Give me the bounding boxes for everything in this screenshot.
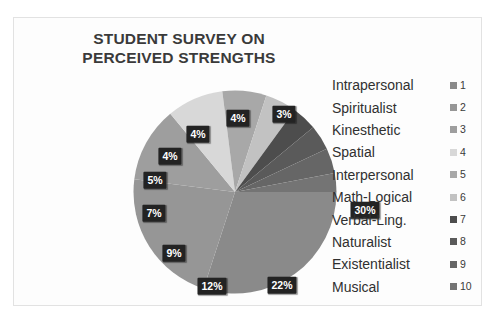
legend-item-index: 1 — [460, 80, 466, 91]
legend-item-index: 9 — [460, 259, 466, 270]
legend-item-label: Kinesthetic — [332, 122, 446, 138]
legend-item[interactable]: Math-Logical6 — [332, 186, 482, 208]
pie-data-label: 4% — [158, 148, 181, 165]
legend-item-label: Spiritualist — [332, 100, 446, 116]
legend-item[interactable]: Existentialist9 — [332, 253, 482, 275]
legend-key: 4 — [450, 147, 482, 158]
legend-swatch-icon — [450, 194, 457, 201]
legend-item-index: 3 — [460, 124, 466, 135]
legend-item[interactable]: Verbal-Ling.7 — [332, 208, 482, 230]
legend-item-label: Spatial — [332, 144, 446, 160]
legend-item-label: Existentialist — [332, 256, 446, 272]
legend-swatch-icon — [450, 283, 457, 290]
legend-swatch-icon — [450, 126, 457, 133]
legend-item-label: Interpersonal — [332, 167, 446, 183]
legend-item[interactable]: Intrapersonal1 — [332, 74, 482, 96]
legend-swatch-icon — [450, 149, 457, 156]
pie-data-label: 4% — [186, 126, 209, 143]
legend-item-label: Intrapersonal — [332, 77, 446, 93]
pie-data-label: 9% — [162, 245, 185, 262]
legend-item-index: 7 — [460, 214, 466, 225]
legend-swatch-icon — [450, 261, 457, 268]
legend-item-index: 2 — [460, 102, 466, 113]
legend-item-index: 10 — [460, 281, 472, 292]
legend-item-label: Verbal-Ling. — [332, 212, 446, 228]
chart-card: STUDENT SURVEY ON PERCEIVED STRENGTHS 30… — [13, 17, 482, 306]
legend-key: 6 — [450, 192, 482, 203]
legend-item[interactable]: Spiritualist2 — [332, 96, 482, 118]
legend-item[interactable]: Spatial4 — [332, 141, 482, 163]
legend-item-index: 4 — [460, 147, 466, 158]
legend-item[interactable]: Naturalist8 — [332, 231, 482, 253]
legend-item[interactable]: Interpersonal5 — [332, 164, 482, 186]
pie-data-label: 22% — [267, 277, 296, 294]
legend-key: 8 — [450, 236, 482, 247]
legend-item[interactable]: Musical10 — [332, 276, 482, 298]
pie-data-label: 4% — [226, 110, 249, 127]
legend-item-label: Naturalist — [332, 234, 446, 250]
legend-item-label: Math-Logical — [332, 189, 446, 205]
pie-data-label: 12% — [197, 278, 226, 295]
legend-swatch-icon — [450, 238, 457, 245]
pie-chart: 30%22%12%9%7%5%4%4%4%3% — [14, 18, 344, 306]
legend-key: 1 — [450, 80, 482, 91]
legend-swatch-icon — [450, 171, 457, 178]
legend-key: 5 — [450, 169, 482, 180]
legend-key: 9 — [450, 259, 482, 270]
legend-key: 2 — [450, 102, 482, 113]
pie-data-label: 7% — [142, 205, 165, 222]
legend-item[interactable]: Kinesthetic3 — [332, 119, 482, 141]
legend-item-index: 5 — [460, 169, 466, 180]
legend-key: 7 — [450, 214, 482, 225]
legend-swatch-icon — [450, 216, 457, 223]
legend-item-index: 8 — [460, 236, 466, 247]
legend-item-label: Musical — [332, 279, 446, 295]
legend-swatch-icon — [450, 104, 457, 111]
legend-key: 3 — [450, 124, 482, 135]
chart-legend: Intrapersonal1Spiritualist2Kinesthetic3S… — [332, 74, 482, 298]
pie-data-label: 3% — [272, 106, 295, 123]
legend-item-index: 6 — [460, 192, 466, 203]
legend-key: 10 — [450, 281, 482, 292]
legend-swatch-icon — [450, 82, 457, 89]
pie-data-label: 5% — [143, 172, 166, 189]
